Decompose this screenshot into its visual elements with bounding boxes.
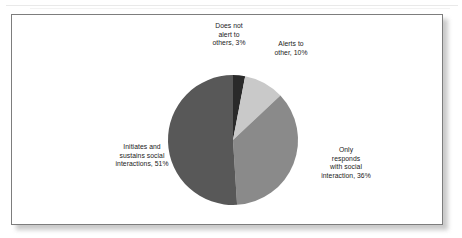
pie-label-initiates-sustains: Initiates and sustains social interactio…	[96, 143, 188, 169]
pie-label-only-responds: Only responds with social interaction, 3…	[298, 146, 394, 180]
scan-artifact-line-secondary	[30, 8, 450, 9]
pie-label-does-not-alert: Does not alert to others, 3%	[196, 22, 262, 48]
pie-slice-initiates-sustains	[168, 75, 237, 205]
scan-artifact-line	[6, 5, 458, 6]
figure-page: Does not alert to others, 3% Alerts to o…	[0, 0, 462, 238]
pie-label-alerts-to-other: Alerts to other, 10%	[258, 40, 324, 57]
